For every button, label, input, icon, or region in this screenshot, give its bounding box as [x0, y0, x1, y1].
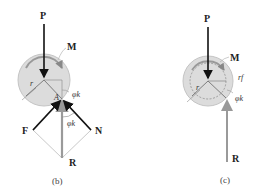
- figure-c: P M r rf φk R (c): [183, 13, 245, 185]
- label-phi-k-bottom-b: φk: [67, 119, 75, 128]
- label-phi-k-top-b: φk: [72, 90, 80, 99]
- figure-b: P M r A φk φk F N R (b): [18, 10, 103, 186]
- label-N-b: N: [95, 125, 103, 136]
- caption-b: (b): [52, 176, 63, 186]
- phi-arc-bottom-b: [62, 113, 74, 117]
- label-rf-c: rf: [238, 73, 245, 82]
- label-R-b: R: [69, 157, 77, 168]
- label-F-b: F: [22, 125, 28, 136]
- label-phi-k-c: φk: [235, 94, 243, 103]
- label-A-b: A: [53, 93, 59, 102]
- label-M-c: M: [230, 52, 240, 63]
- m-leader-b: [58, 48, 66, 60]
- label-P-b: P: [40, 10, 46, 21]
- diagram-canvas: P M r A φk φk F N R (b) P M r: [0, 0, 271, 192]
- label-P-c: P: [204, 13, 210, 24]
- label-M-b: M: [67, 41, 77, 52]
- label-R-c: R: [232, 153, 240, 164]
- caption-c: (c): [220, 175, 230, 185]
